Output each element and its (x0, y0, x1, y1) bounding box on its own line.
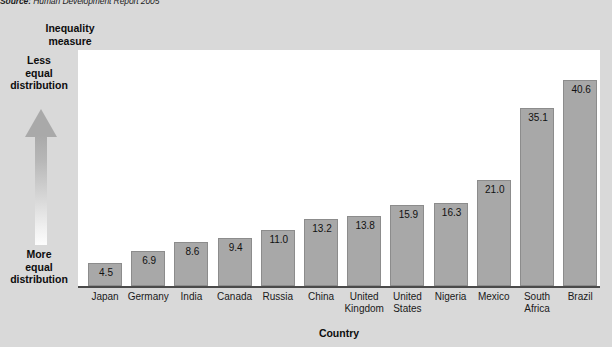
less-equal-caption-line-3: distribution (0, 79, 78, 92)
bar-value-label: 21.0 (478, 184, 512, 195)
less-equal-caption: Less equal distribution (0, 54, 78, 92)
bar[interactable]: 40.6 (563, 80, 597, 286)
bar[interactable]: 4.5 (88, 263, 122, 286)
bar[interactable]: 15.9 (390, 205, 424, 286)
category-label-line-2: Africa (510, 303, 564, 315)
plot-panel: 4.56.98.69.411.013.213.815.916.321.035.1… (78, 50, 600, 288)
more-equal-caption-line-1: More (0, 248, 78, 261)
bar-value-label: 9.4 (219, 242, 253, 253)
bar-value-label: 8.6 (175, 246, 209, 257)
more-equal-caption-line-2: equal (0, 261, 78, 274)
bar-group[interactable]: 21.0 (477, 180, 511, 286)
bar-value-label: 15.9 (391, 209, 425, 220)
bar-group[interactable]: 11.0 (261, 230, 295, 286)
category-label: Brazil (553, 291, 607, 303)
bar[interactable]: 6.9 (131, 251, 165, 286)
x-axis-title: Country (78, 327, 600, 339)
bar-plot-area: 4.56.98.69.411.013.213.815.916.321.035.1… (78, 50, 600, 288)
bar-value-label: 40.6 (564, 84, 598, 95)
bar-group[interactable]: 4.5 (88, 263, 122, 286)
source-text: Human Development Report 2005 (31, 0, 159, 6)
bar-group[interactable]: 13.8 (347, 216, 381, 286)
bar-group[interactable]: 13.2 (304, 219, 338, 286)
bar-group[interactable]: 16.3 (434, 203, 468, 286)
bar[interactable]: 8.6 (174, 242, 208, 286)
category-label-line-1: Brazil (553, 291, 607, 303)
bar-value-label: 35.1 (521, 112, 555, 123)
bar-group[interactable]: 9.4 (218, 238, 252, 286)
y-axis-title-line-1: Inequality (0, 22, 140, 35)
category-axis: JapanGermanyIndiaCanadaRussiaChinaUnited… (78, 291, 600, 321)
arrow-head-icon (25, 109, 57, 137)
bar-value-label: 16.3 (435, 207, 469, 218)
bar[interactable]: 9.4 (218, 238, 252, 286)
bar[interactable]: 13.8 (347, 216, 381, 286)
bar-value-label: 13.2 (305, 223, 339, 234)
source-note: Source: Human Development Report 2005 (0, 0, 159, 6)
inequality-direction-annotation: Less equal distribution More equal distr… (0, 50, 78, 290)
bar-value-label: 11.0 (262, 234, 296, 245)
bar-value-label: 6.9 (132, 255, 166, 266)
bar-value-label: 4.5 (89, 267, 123, 278)
bar-group[interactable]: 40.6 (563, 80, 597, 286)
bar-value-label: 13.8 (348, 220, 382, 231)
category-label-line-2: States (380, 303, 434, 315)
bar-group[interactable]: 6.9 (131, 251, 165, 286)
up-arrow-icon (25, 109, 57, 245)
bar-group[interactable]: 8.6 (174, 242, 208, 286)
y-axis-title: Inequality measure (0, 22, 140, 47)
bar[interactable]: 16.3 (434, 203, 468, 286)
less-equal-caption-line-1: Less (0, 54, 78, 67)
source-label: Source: (0, 0, 31, 6)
bar[interactable]: 21.0 (477, 180, 511, 286)
bar[interactable]: 11.0 (261, 230, 295, 286)
bar-group[interactable]: 15.9 (390, 205, 424, 286)
less-equal-caption-line-2: equal (0, 67, 78, 80)
more-equal-caption-line-3: distribution (0, 273, 78, 286)
bar-group[interactable]: 35.1 (520, 108, 554, 286)
y-axis-title-line-2: measure (0, 35, 140, 48)
x-axis-line (78, 286, 600, 288)
more-equal-caption: More equal distribution (0, 248, 78, 286)
arrow-shaft-icon (35, 135, 47, 245)
bar[interactable]: 13.2 (304, 219, 338, 286)
bar[interactable]: 35.1 (520, 108, 554, 286)
